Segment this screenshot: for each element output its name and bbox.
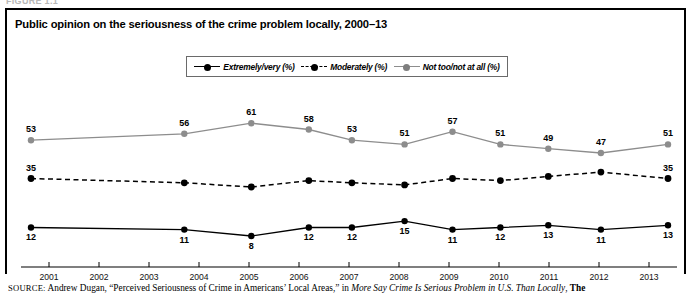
data-label: 51 — [495, 128, 505, 138]
x-axis-tick-2012: 2012 — [589, 272, 608, 282]
data-point — [349, 224, 355, 230]
data-label: 11 — [448, 235, 458, 245]
data-label: 56 — [179, 118, 189, 128]
data-point — [545, 173, 552, 180]
source-text-1: Andrew Dugan, “Perceived Seriousness of … — [46, 283, 352, 293]
data-point — [401, 218, 407, 224]
data-label: 47 — [596, 137, 606, 147]
data-point — [497, 177, 504, 184]
data-label: 12 — [304, 232, 314, 242]
data-point — [497, 224, 503, 230]
data-point — [349, 179, 356, 186]
data-point — [305, 177, 312, 184]
x-axis-tick-2010: 2010 — [489, 272, 508, 282]
data-point — [181, 131, 187, 137]
source-publication-title: More Say Crime Is Serious Problem in U.S… — [351, 283, 565, 293]
source-tail: The — [570, 283, 586, 293]
data-label: 13 — [663, 230, 673, 240]
x-axis-tick-2001: 2001 — [39, 272, 58, 282]
chart-svg — [5, 8, 686, 274]
data-label: 15 — [400, 226, 410, 236]
x-axis-tick-2005: 2005 — [239, 272, 258, 282]
source-note: SOURCE: Andrew Dugan, “Perceived Serious… — [8, 283, 684, 294]
data-point — [449, 175, 456, 182]
data-point — [28, 175, 35, 182]
data-point — [28, 224, 34, 230]
data-label: 51 — [400, 128, 410, 138]
data-point — [401, 182, 408, 189]
data-point — [349, 137, 355, 143]
x-axis-tick-2011: 2011 — [540, 272, 558, 282]
data-point — [665, 175, 672, 182]
data-point — [665, 141, 671, 147]
data-point — [181, 179, 188, 186]
data-point — [545, 222, 551, 228]
data-point — [28, 137, 34, 143]
data-point — [449, 226, 455, 232]
data-point — [449, 129, 455, 135]
data-label: 35 — [663, 163, 673, 173]
x-axis-tick-2006: 2006 — [289, 272, 308, 282]
x-axis-tick-2013: 2013 — [639, 272, 658, 282]
x-axis-tick-2008: 2008 — [389, 272, 408, 282]
source-kicker: SOURCE: — [8, 283, 46, 293]
data-label: 53 — [26, 124, 36, 134]
data-label: 58 — [304, 114, 314, 124]
data-point — [248, 233, 254, 239]
data-label: 12 — [347, 232, 357, 242]
data-point — [181, 226, 187, 232]
data-point — [306, 126, 312, 132]
x-axis-tick-2003: 2003 — [139, 272, 158, 282]
data-label: 49 — [543, 133, 553, 143]
data-point — [545, 146, 551, 152]
data-point — [306, 224, 312, 230]
x-axis-tick-2004: 2004 — [189, 272, 208, 282]
data-label: 13 — [543, 230, 553, 240]
data-point — [598, 150, 604, 156]
data-point — [497, 141, 503, 147]
data-label: 35 — [26, 163, 36, 173]
line-chart-plot-area: 5356615853515751494751353512118121215111… — [5, 8, 686, 274]
data-label: 51 — [663, 128, 673, 138]
data-label: 57 — [447, 116, 457, 126]
data-point — [248, 120, 254, 126]
data-label: 8 — [249, 241, 254, 251]
data-label: 61 — [246, 107, 256, 117]
x-axis-tick-2002: 2002 — [89, 272, 108, 282]
data-label: 12 — [26, 232, 36, 242]
data-label: 11 — [179, 235, 189, 245]
data-label: 53 — [347, 124, 357, 134]
data-point — [665, 222, 671, 228]
data-label: 11 — [596, 235, 606, 245]
data-point — [401, 141, 407, 147]
data-point — [598, 226, 604, 232]
data-point — [598, 169, 605, 176]
data-point — [248, 184, 255, 191]
x-axis-tick-2007: 2007 — [339, 272, 358, 282]
x-axis-tick-2009: 2009 — [439, 272, 458, 282]
figure-number-label: FIGURE 1.1 — [6, 0, 58, 4]
data-label: 12 — [495, 232, 505, 242]
